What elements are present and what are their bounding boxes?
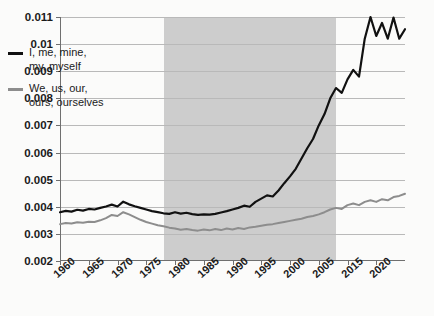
y-axis-tick-label: 0.003: [24, 228, 53, 240]
legend-item: I, me, mine, my, myself: [8, 46, 143, 73]
y-axis-tick-label: 0.002: [24, 255, 53, 267]
series-line: [60, 194, 405, 231]
chart-legend: I, me, mine, my, myself We, us, our, our…: [8, 46, 143, 118]
legend-swatch-first-person-plural: [8, 88, 23, 91]
chart-figure: 0.0020.0030.0040.0050.0060.0070.0080.009…: [0, 0, 434, 316]
legend-label-first-person-plural: We, us, our, ours, ourselves: [29, 82, 104, 109]
x-axis-tick-labels: 1960196519701975198019851990199520002005…: [60, 263, 405, 313]
x-axis-tick-label: 1960: [51, 255, 77, 280]
legend-swatch-first-person-singular: [8, 52, 23, 55]
y-axis-tick-label: 0.011: [25, 11, 53, 23]
legend-label-first-person-singular: I, me, mine, my, myself: [29, 46, 86, 73]
y-axis-tick-label: 0.004: [24, 201, 53, 213]
y-axis-tick-label: 0.007: [24, 119, 53, 131]
legend-item: We, us, our, ours, ourselves: [8, 82, 143, 109]
y-axis-tick-label: 0.005: [24, 174, 53, 186]
y-axis-tick-label: 0.006: [24, 147, 53, 159]
